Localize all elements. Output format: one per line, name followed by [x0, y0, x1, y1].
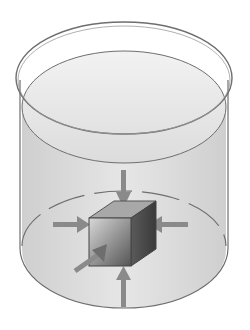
liquid-surface: [22, 51, 226, 163]
beaker-diagram: [0, 0, 250, 330]
